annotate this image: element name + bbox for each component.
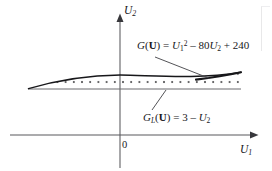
origin-label: 0 xyxy=(122,140,127,151)
limit-state-equation-label: G(U) = U12 – 80U2 + 240 xyxy=(137,40,249,52)
leader-gl xyxy=(152,90,166,110)
y-axis-label: U2 xyxy=(124,5,136,18)
leader-g xyxy=(155,57,209,78)
x-axis-label: U1 xyxy=(240,144,252,157)
page-edge-artifact xyxy=(261,6,270,51)
limit-line-equation-label: GL(U) = 3 – U2 xyxy=(143,112,210,124)
x-axis xyxy=(10,131,259,138)
figure-canvas xyxy=(0,0,272,171)
